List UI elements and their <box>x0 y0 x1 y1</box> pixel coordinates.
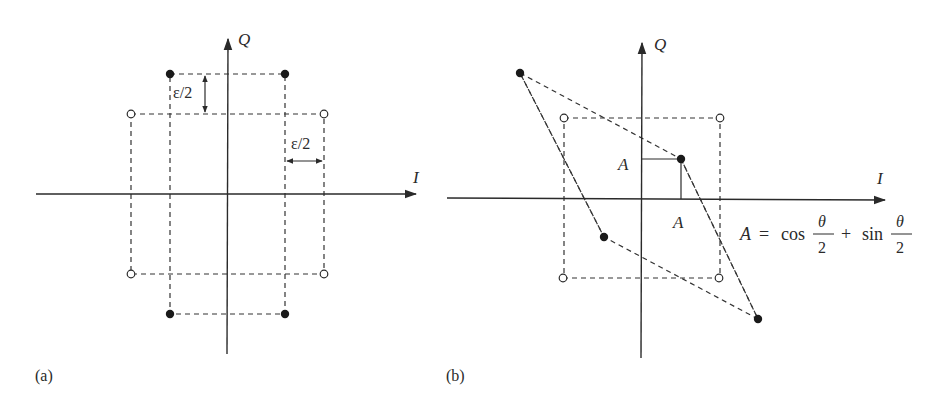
i-axis-label-b: I <box>876 169 884 188</box>
eps-vertical-label: ε/2 <box>173 84 192 101</box>
open-point <box>127 270 135 278</box>
open-point <box>715 274 723 282</box>
q-axis-label-a: Q <box>238 30 250 49</box>
formula-sin: sin <box>862 224 883 244</box>
filled-point <box>166 70 174 78</box>
q-axis-label-b: Q <box>654 35 666 54</box>
open-point <box>320 110 328 118</box>
filled-point <box>516 69 524 77</box>
i-axis-label-a: I <box>412 168 420 187</box>
amplitude-formula: A = cos θ 2 + sin θ 2 <box>739 213 912 256</box>
panel-b-label: (b) <box>446 367 465 385</box>
q-axis-b <box>641 43 642 358</box>
formula-denominator-2: 2 <box>896 239 904 256</box>
filled-point <box>166 310 174 318</box>
rotated-diagonal <box>520 73 604 237</box>
a-label-horizontal: A <box>672 213 684 232</box>
formula-equals: = <box>759 224 769 244</box>
formula-numerator-2: θ <box>896 213 904 230</box>
panel-a: Q I ε/2 ε/2 (a) <box>35 30 420 385</box>
formula-denominator-1: 2 <box>818 239 826 256</box>
open-point <box>127 110 135 118</box>
panel-a-label: (a) <box>35 367 53 385</box>
i-axis-b <box>447 198 885 200</box>
constellation-figure: Q I ε/2 ε/2 (a) Q I A A A <box>0 0 950 413</box>
rotated-constellation-outline <box>520 73 758 319</box>
eps-horizontal-label: ε/2 <box>291 135 310 152</box>
panel-b: Q I A A A = cos θ 2 + sin θ 2 (b) <box>446 35 912 385</box>
filled-point <box>677 155 685 163</box>
q-axis-a <box>227 39 228 354</box>
filled-point <box>600 233 608 241</box>
open-point <box>559 274 567 282</box>
filled-point <box>754 315 762 323</box>
filled-point <box>281 70 289 78</box>
filled-point <box>281 310 289 318</box>
formula-lhs: A <box>739 224 752 244</box>
open-point <box>716 114 724 122</box>
open-point <box>560 114 568 122</box>
open-point <box>320 270 328 278</box>
formula-plus: + <box>841 224 851 244</box>
formula-cos: cos <box>781 224 805 244</box>
a-label-vertical: A <box>617 155 629 174</box>
formula-numerator-1: θ <box>818 213 826 230</box>
